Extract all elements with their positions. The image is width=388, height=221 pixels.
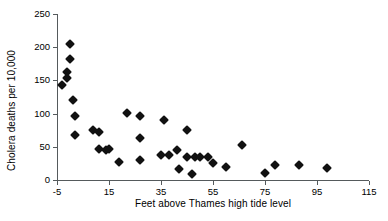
data-point-marker — [70, 130, 80, 140]
x-tick-mark — [317, 181, 318, 185]
data-point-marker — [68, 95, 78, 105]
x-tick-label: 115 — [354, 187, 384, 197]
y-tick-label: 200 — [18, 42, 50, 52]
data-point-marker — [270, 160, 280, 170]
y-tick-label: 0 — [18, 175, 50, 185]
y-tick-label: 250 — [18, 9, 50, 19]
x-tick-label: 15 — [94, 187, 124, 197]
x-tick-mark — [109, 181, 110, 185]
data-point-marker — [65, 39, 75, 49]
data-point-marker — [114, 157, 124, 167]
x-tick-label: 55 — [198, 187, 228, 197]
data-point-marker — [135, 133, 145, 143]
x-tick-mark — [161, 181, 162, 185]
data-point-marker — [135, 155, 145, 165]
data-point-marker — [164, 150, 174, 160]
x-tick-mark — [369, 181, 370, 185]
data-point-marker — [221, 162, 231, 172]
cholera-elevation-scatter-chart: Cholera deaths per 10,000 Feet above Tha… — [0, 0, 388, 221]
x-tick-mark — [57, 181, 58, 185]
x-tick-mark — [265, 181, 266, 185]
data-point-marker — [260, 168, 270, 178]
data-point-marker — [122, 108, 132, 118]
data-point-marker — [322, 163, 332, 173]
data-point-marker — [174, 164, 184, 174]
data-point-marker — [187, 169, 197, 179]
data-point-marker — [70, 111, 80, 121]
x-tick-label: 95 — [302, 187, 332, 197]
data-point-marker — [159, 115, 169, 125]
plot-area — [57, 14, 369, 180]
x-tick-label: 35 — [146, 187, 176, 197]
x-tick-mark — [213, 181, 214, 185]
data-point-marker — [65, 54, 75, 64]
x-axis-title: Feet above Thames high tide level — [57, 198, 369, 209]
data-point-marker — [135, 111, 145, 121]
x-tick-label: 75 — [250, 187, 280, 197]
x-tick-label: -5 — [42, 187, 72, 197]
y-tick-label: 50 — [18, 142, 50, 152]
y-tick-label: 150 — [18, 75, 50, 85]
data-point-marker — [182, 125, 192, 135]
y-tick-label: 100 — [18, 109, 50, 119]
data-point-marker — [237, 140, 247, 150]
data-point-marker — [294, 160, 304, 170]
